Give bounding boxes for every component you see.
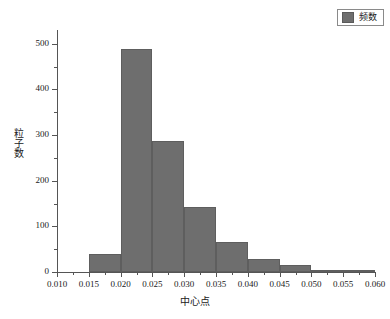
x-minor-tick-mark xyxy=(296,272,297,275)
x-tick-mark xyxy=(311,272,312,277)
x-tick-mark xyxy=(248,272,249,277)
y-tick-label: 300 xyxy=(36,129,50,139)
x-tick-mark xyxy=(57,272,58,277)
plot-area xyxy=(57,30,375,272)
histogram-bar xyxy=(216,242,248,272)
x-tick-mark xyxy=(121,272,122,277)
chart-legend: 频数 xyxy=(337,9,384,26)
x-tick-label: 0.045 xyxy=(269,279,289,289)
x-minor-tick-mark xyxy=(359,272,360,275)
x-tick-label: 0.035 xyxy=(206,279,226,289)
histogram-bar xyxy=(280,265,312,272)
x-tick-label: 0.050 xyxy=(301,279,321,289)
histogram-bar xyxy=(121,49,153,272)
histogram-bar xyxy=(248,259,280,272)
y-tick-label: 0 xyxy=(45,266,50,276)
x-tick-mark xyxy=(343,272,344,277)
legend-entry-label: 频数 xyxy=(359,13,377,22)
x-tick-label: 0.020 xyxy=(110,279,130,289)
y-tick-label: 500 xyxy=(36,38,50,48)
x-minor-tick-mark xyxy=(73,272,74,275)
x-tick-label: 0.060 xyxy=(365,279,385,289)
histogram-bar xyxy=(343,270,375,272)
x-tick-label: 0.010 xyxy=(47,279,67,289)
histogram-bar xyxy=(89,254,121,272)
x-minor-tick-mark xyxy=(327,272,328,275)
x-minor-tick-mark xyxy=(168,272,169,275)
x-minor-tick-mark xyxy=(137,272,138,275)
x-tick-mark xyxy=(216,272,217,277)
x-tick-mark xyxy=(152,272,153,277)
x-tick-mark xyxy=(184,272,185,277)
x-tick-label: 0.055 xyxy=(333,279,353,289)
x-minor-tick-mark xyxy=(105,272,106,275)
histogram-bar xyxy=(184,207,216,272)
x-minor-tick-mark xyxy=(200,272,201,275)
x-tick-mark xyxy=(280,272,281,277)
histogram-chart: 频数 0100200300400500 0.0100.0150.0200.025… xyxy=(0,0,390,319)
y-tick-label: 200 xyxy=(36,175,50,185)
histogram-bar xyxy=(311,270,343,272)
x-minor-tick-mark xyxy=(264,272,265,275)
x-tick-label: 0.015 xyxy=(79,279,99,289)
y-tick-label: 400 xyxy=(36,83,50,93)
y-tick-label: 100 xyxy=(36,220,50,230)
frequency-swatch-icon xyxy=(342,12,354,23)
x-tick-label: 0.040 xyxy=(238,279,258,289)
x-tick-label: 0.025 xyxy=(142,279,162,289)
histogram-bar xyxy=(152,141,184,272)
x-minor-tick-mark xyxy=(232,272,233,275)
y-axis-title: 粒子数 xyxy=(10,128,25,158)
x-tick-label: 0.030 xyxy=(174,279,194,289)
x-tick-mark xyxy=(89,272,90,277)
x-axis-title: 中心点 xyxy=(0,293,390,308)
x-tick-mark xyxy=(375,272,376,277)
